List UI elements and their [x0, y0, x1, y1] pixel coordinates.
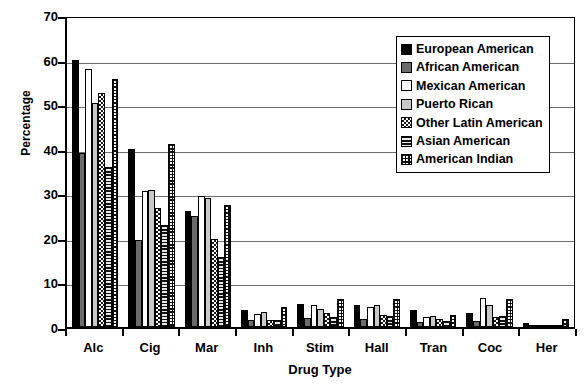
- x-tick-label: Her: [518, 340, 575, 355]
- y-tick-label: 60: [0, 54, 58, 69]
- bar: [261, 312, 268, 327]
- bar: [317, 309, 324, 327]
- legend-swatch-icon: [401, 136, 412, 147]
- legend-item[interactable]: Mexican American: [401, 77, 543, 95]
- legend-label: American Indian: [416, 153, 513, 166]
- y-tick-mark: [58, 17, 65, 19]
- legend-item[interactable]: African American: [401, 58, 543, 76]
- bar: [85, 69, 92, 328]
- bar: [423, 317, 430, 327]
- bar: [274, 320, 281, 327]
- y-tick-mark: [58, 284, 65, 286]
- legend-label: Mexican American: [416, 80, 525, 93]
- bar: [128, 149, 135, 327]
- y-tick-mark: [58, 151, 65, 153]
- bar: [218, 257, 225, 327]
- bar: [112, 79, 119, 327]
- bar: [374, 305, 381, 327]
- bar: [198, 196, 205, 327]
- bar: [387, 316, 394, 327]
- y-tick-mark: [58, 195, 65, 197]
- bar-group-mar: [180, 18, 236, 327]
- x-tick-mark: [235, 329, 237, 336]
- bar: [191, 216, 198, 327]
- x-tick-label: Inh: [235, 340, 292, 355]
- legend-label: Asian American: [416, 135, 510, 148]
- bar: [211, 239, 218, 327]
- bar: [486, 305, 493, 327]
- bar: [155, 208, 162, 327]
- bar: [523, 323, 530, 327]
- bar: [542, 325, 549, 327]
- x-tick-mark: [575, 329, 577, 336]
- bar: [480, 298, 487, 327]
- bar: [529, 325, 536, 327]
- bar: [297, 304, 304, 327]
- bar-group-cig: [123, 18, 179, 327]
- bar: [241, 310, 248, 327]
- y-tick-label: 50: [0, 98, 58, 113]
- legend-item[interactable]: Puerto Rican: [401, 95, 543, 113]
- bar: [493, 317, 500, 327]
- y-tick-label: 0: [0, 321, 58, 336]
- bar: [142, 191, 149, 327]
- bar: [443, 321, 450, 327]
- bar: [360, 319, 367, 327]
- y-tick-label: 10: [0, 276, 58, 291]
- bar-group-stim: [292, 18, 348, 327]
- bar-chart: Percentage 706050403020100 AlcCigMarInhS…: [0, 0, 585, 391]
- y-axis-title: Percentage: [19, 63, 33, 183]
- bar: [254, 314, 261, 327]
- bar: [367, 307, 374, 328]
- bar: [205, 198, 212, 327]
- x-tick-label: Stim: [292, 340, 349, 355]
- bar: [161, 225, 168, 328]
- x-axis-ticks: [65, 329, 575, 337]
- x-tick-label: Alc: [65, 340, 122, 355]
- legend-label: Other Latin American: [416, 117, 543, 130]
- y-tick-mark: [58, 106, 65, 108]
- legend-item[interactable]: European American: [401, 40, 543, 58]
- legend: European AmericanAfrican AmericanMexican…: [396, 36, 550, 173]
- legend-item[interactable]: Other Latin American: [401, 114, 543, 132]
- bar: [330, 317, 337, 327]
- bar: [248, 320, 255, 327]
- bar: [556, 325, 563, 327]
- bar: [466, 313, 473, 327]
- y-tick-label: 20: [0, 232, 58, 247]
- legend-swatch-icon: [401, 99, 412, 110]
- bar: [185, 211, 192, 327]
- x-tick-mark: [518, 329, 520, 336]
- legend-item[interactable]: Asian American: [401, 132, 543, 150]
- bar: [549, 325, 556, 327]
- legend-swatch-icon: [401, 80, 412, 91]
- bar: [562, 319, 569, 327]
- bar: [72, 60, 79, 327]
- bar: [168, 144, 175, 327]
- bar: [98, 93, 105, 327]
- legend-swatch-icon: [401, 117, 412, 128]
- x-tick-label: Cig: [122, 340, 179, 355]
- bar: [506, 299, 513, 327]
- bar: [450, 315, 457, 327]
- bar: [324, 313, 331, 327]
- legend-label: Puerto Rican: [416, 98, 493, 111]
- x-tick-mark: [462, 329, 464, 336]
- bar: [135, 240, 142, 327]
- x-tick-mark: [65, 329, 67, 336]
- bar: [436, 319, 443, 327]
- x-tick-mark: [348, 329, 350, 336]
- bar-group-inh: [236, 18, 292, 327]
- x-tick-mark: [292, 329, 294, 336]
- legend-swatch-icon: [401, 154, 412, 165]
- bar: [267, 320, 274, 327]
- legend-item[interactable]: American Indian: [401, 150, 543, 168]
- x-tick-label: Coc: [462, 340, 519, 355]
- bar: [430, 316, 437, 327]
- bar: [311, 305, 318, 327]
- x-tick-label: Mar: [178, 340, 235, 355]
- bar: [281, 307, 288, 328]
- legend-swatch-icon: [401, 44, 412, 55]
- bar: [224, 205, 231, 327]
- x-tick-label: Hall: [348, 340, 405, 355]
